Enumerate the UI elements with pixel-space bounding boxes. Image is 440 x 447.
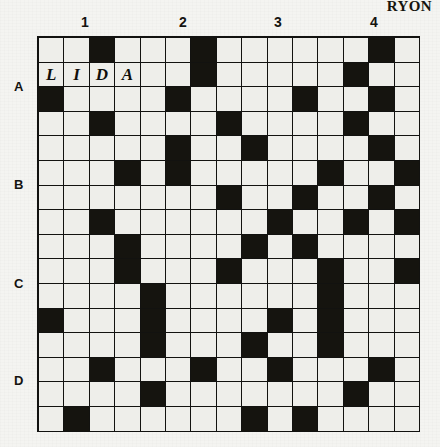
grid-cell[interactable] — [90, 235, 115, 260]
grid-cell[interactable] — [318, 112, 343, 137]
grid-cell[interactable] — [217, 382, 242, 407]
grid-cell[interactable] — [39, 333, 64, 358]
grid-cell[interactable] — [369, 161, 394, 186]
grid-cell[interactable] — [268, 284, 293, 309]
grid-cell[interactable] — [369, 382, 394, 407]
grid-cell[interactable] — [166, 407, 191, 432]
grid-cell[interactable]: I — [64, 63, 89, 88]
grid-cell[interactable] — [64, 235, 89, 260]
grid-cell[interactable] — [217, 161, 242, 186]
grid-cell[interactable] — [369, 309, 394, 334]
grid-cell[interactable] — [242, 382, 267, 407]
grid-cell[interactable] — [166, 38, 191, 63]
grid-cell[interactable] — [141, 161, 166, 186]
grid-cell[interactable] — [217, 136, 242, 161]
grid-cell[interactable] — [64, 333, 89, 358]
grid-cell[interactable] — [268, 112, 293, 137]
grid-cell[interactable] — [64, 186, 89, 211]
grid-cell[interactable] — [141, 38, 166, 63]
grid-cell[interactable] — [395, 63, 420, 88]
grid-cell[interactable] — [39, 136, 64, 161]
grid-cell[interactable] — [395, 38, 420, 63]
grid-cell[interactable] — [166, 382, 191, 407]
grid-cell[interactable] — [318, 38, 343, 63]
grid-cell[interactable] — [293, 284, 318, 309]
grid-cell[interactable] — [369, 210, 394, 235]
grid-cell[interactable] — [293, 136, 318, 161]
grid-cell[interactable] — [39, 112, 64, 137]
grid-cell[interactable] — [39, 186, 64, 211]
grid-cell[interactable] — [115, 382, 140, 407]
grid-cell[interactable] — [141, 407, 166, 432]
grid-cell[interactable] — [293, 309, 318, 334]
grid-cell[interactable] — [344, 259, 369, 284]
grid-cell[interactable] — [166, 210, 191, 235]
grid-cell[interactable] — [141, 235, 166, 260]
grid-cell[interactable] — [318, 210, 343, 235]
grid-cell[interactable] — [90, 284, 115, 309]
grid-cell[interactable] — [191, 186, 216, 211]
grid-cell[interactable] — [318, 63, 343, 88]
grid-cell[interactable] — [395, 358, 420, 383]
grid-cell[interactable] — [191, 407, 216, 432]
grid-cell[interactable] — [90, 407, 115, 432]
grid-cell[interactable] — [293, 161, 318, 186]
grid-cell[interactable] — [268, 186, 293, 211]
grid-cell[interactable] — [293, 210, 318, 235]
grid-cell[interactable] — [242, 186, 267, 211]
grid-cell[interactable] — [395, 382, 420, 407]
grid-cell[interactable] — [191, 382, 216, 407]
grid-cell[interactable] — [141, 136, 166, 161]
grid-cell[interactable] — [344, 186, 369, 211]
grid-cell[interactable] — [242, 309, 267, 334]
grid-cell[interactable] — [242, 112, 267, 137]
grid-cell[interactable] — [217, 358, 242, 383]
grid-cell[interactable] — [318, 186, 343, 211]
grid-cell[interactable] — [395, 407, 420, 432]
grid-cell[interactable] — [64, 161, 89, 186]
grid-cell[interactable] — [242, 87, 267, 112]
grid-cell[interactable] — [344, 87, 369, 112]
grid-cell[interactable] — [268, 382, 293, 407]
grid-cell[interactable] — [217, 309, 242, 334]
grid-cell[interactable] — [166, 63, 191, 88]
grid-cell[interactable] — [64, 210, 89, 235]
grid-cell[interactable] — [115, 136, 140, 161]
grid-cell[interactable] — [39, 382, 64, 407]
grid-cell[interactable] — [166, 112, 191, 137]
grid-cell[interactable] — [166, 284, 191, 309]
grid-cell[interactable] — [268, 161, 293, 186]
grid-cell[interactable] — [217, 87, 242, 112]
grid-cell[interactable] — [344, 284, 369, 309]
grid-cell[interactable] — [141, 87, 166, 112]
grid-cell[interactable] — [115, 309, 140, 334]
grid-cell[interactable] — [191, 309, 216, 334]
grid-cell[interactable] — [191, 87, 216, 112]
grid-cell[interactable] — [242, 38, 267, 63]
grid-cell[interactable] — [369, 112, 394, 137]
grid-cell[interactable] — [293, 358, 318, 383]
grid-cell[interactable] — [141, 210, 166, 235]
grid-cell[interactable] — [395, 235, 420, 260]
grid-cell[interactable] — [293, 259, 318, 284]
grid-cell[interactable] — [64, 358, 89, 383]
grid-cell[interactable] — [242, 63, 267, 88]
grid-cell[interactable] — [166, 358, 191, 383]
grid-cell[interactable] — [344, 358, 369, 383]
grid-cell[interactable] — [115, 87, 140, 112]
crossword-grid[interactable]: LIDA — [37, 36, 420, 432]
grid-cell[interactable] — [268, 63, 293, 88]
grid-cell[interactable] — [115, 407, 140, 432]
grid-cell[interactable] — [141, 63, 166, 88]
grid-cell[interactable] — [141, 358, 166, 383]
grid-cell[interactable] — [395, 309, 420, 334]
grid-cell[interactable] — [191, 235, 216, 260]
crossword-grid-container[interactable]: LIDA — [37, 36, 420, 432]
grid-cell[interactable] — [217, 284, 242, 309]
grid-cell[interactable] — [115, 210, 140, 235]
grid-cell[interactable] — [39, 38, 64, 63]
grid-cell[interactable] — [369, 407, 394, 432]
grid-cell[interactable] — [64, 284, 89, 309]
grid-cell[interactable] — [39, 210, 64, 235]
grid-cell[interactable] — [90, 161, 115, 186]
